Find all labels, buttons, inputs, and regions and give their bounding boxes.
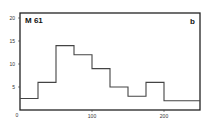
x-tick-0: 0 bbox=[16, 112, 19, 118]
y-tick-5: 5 bbox=[12, 84, 15, 90]
histogram-chart: 5 10 15 20 0 100 200 M 61 b bbox=[0, 0, 213, 123]
y-tick-20: 20 bbox=[9, 15, 15, 21]
plot-frame bbox=[20, 13, 200, 110]
y-tick-10: 10 bbox=[9, 61, 15, 67]
y-axis: 5 10 15 20 bbox=[9, 15, 20, 90]
x-tick-100: 100 bbox=[88, 113, 97, 119]
y-tick-15: 15 bbox=[9, 38, 15, 44]
x-axis: 0 100 200 bbox=[16, 110, 169, 119]
x-tick-200: 200 bbox=[160, 113, 169, 119]
histogram-outline bbox=[20, 46, 200, 101]
panel-label: b bbox=[190, 17, 195, 26]
sample-label: M 61 bbox=[25, 16, 43, 25]
